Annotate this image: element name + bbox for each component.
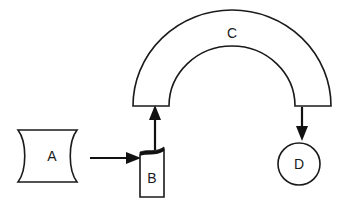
node-d[interactable]: D	[278, 143, 320, 185]
diagram-canvas: A B C D	[0, 0, 345, 208]
connector-b-to-c-arrowhead	[149, 105, 161, 120]
connector-c-to-d-arrowhead	[296, 126, 308, 141]
node-b-label: B	[147, 170, 156, 186]
flow-diagram: A B C D	[0, 0, 345, 208]
connector-b-to-c	[149, 105, 161, 150]
connector-a-to-b	[90, 152, 141, 164]
node-a[interactable]: A	[18, 130, 77, 182]
node-c[interactable]: C	[133, 10, 331, 106]
node-d-label: D	[294, 156, 304, 172]
connector-a-to-b-arrowhead	[126, 152, 141, 164]
connector-c-to-d	[296, 107, 308, 141]
node-a-label: A	[47, 148, 57, 164]
node-c-label: C	[227, 25, 237, 41]
node-b[interactable]: B	[140, 147, 164, 197]
